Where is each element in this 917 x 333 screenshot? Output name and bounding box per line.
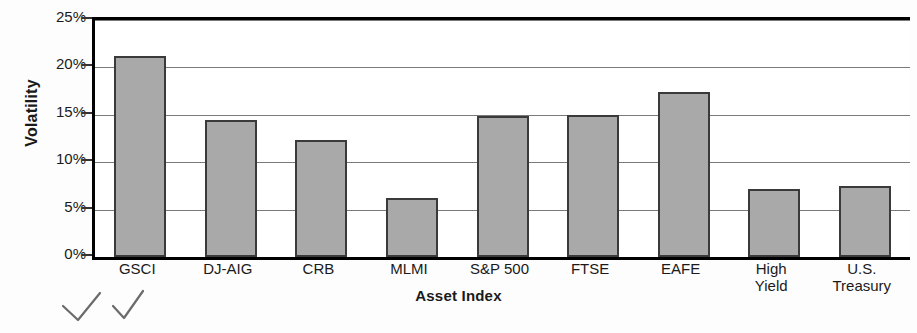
bar[interactable] xyxy=(567,115,619,257)
y-axis-tick-label: 20% xyxy=(30,56,86,71)
bar-slot xyxy=(638,20,729,257)
bar-slot xyxy=(457,20,548,257)
bar[interactable] xyxy=(748,189,800,257)
bar[interactable] xyxy=(477,116,529,257)
y-axis-tick-labels: 0%5%10%15%20%25% xyxy=(28,0,86,333)
x-axis-title: Asset Index xyxy=(0,287,917,304)
bar[interactable] xyxy=(295,140,347,257)
bar-series xyxy=(95,20,910,257)
volatility-bar-chart: Volatility 0%5%10%15%20%25% GSCIDJ-AIGCR… xyxy=(0,0,917,333)
y-axis-tick-label: 0% xyxy=(30,246,86,261)
bar-slot xyxy=(186,20,277,257)
bar[interactable] xyxy=(205,120,257,257)
y-axis-tick-label: 10% xyxy=(30,151,86,166)
bar-slot xyxy=(367,20,458,257)
bar[interactable] xyxy=(386,198,438,257)
plot-area xyxy=(92,17,910,260)
bar-slot xyxy=(276,20,367,257)
bar[interactable] xyxy=(658,92,710,257)
y-axis-tick-label: 25% xyxy=(30,9,86,24)
bar-slot xyxy=(729,20,820,257)
bar[interactable] xyxy=(114,56,166,257)
bar-slot xyxy=(95,20,186,257)
bar[interactable] xyxy=(839,186,891,257)
y-axis-tick-label: 15% xyxy=(30,104,86,119)
y-axis-tick-label: 5% xyxy=(30,199,86,214)
bar-slot xyxy=(548,20,639,257)
bar-slot xyxy=(820,20,911,257)
